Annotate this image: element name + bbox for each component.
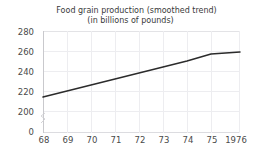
x-tick-label-75: 75 xyxy=(202,136,222,145)
chart-container: Food grain production (smoothed trend) (… xyxy=(0,0,255,156)
x-tick-label-68: 68 xyxy=(34,136,54,145)
x-tick-label-74: 74 xyxy=(178,136,198,145)
plot-background xyxy=(43,31,240,133)
x-tick-label-69: 69 xyxy=(58,136,78,145)
x-tick-label-71: 71 xyxy=(106,136,126,145)
y-tick-label-220: 220 xyxy=(8,88,34,97)
plot-area xyxy=(0,0,255,156)
y-tick-label-240: 240 xyxy=(8,68,34,77)
x-tick-label-1976: 1976 xyxy=(220,136,252,145)
y-tick-label-260: 260 xyxy=(8,48,34,57)
y-tick-label-280: 280 xyxy=(8,28,34,37)
x-tick-label-73: 73 xyxy=(154,136,174,145)
y-tick-label-0: 0 xyxy=(8,128,34,137)
x-tick-label-72: 72 xyxy=(130,136,150,145)
y-tick-label-200: 200 xyxy=(8,108,34,117)
x-tick-label-70: 70 xyxy=(82,136,102,145)
